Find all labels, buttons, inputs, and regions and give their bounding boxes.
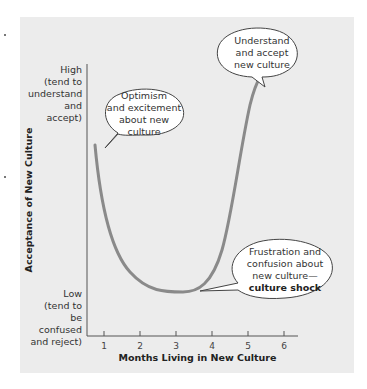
y-high-label: High(tend tounderstandand accept) [28,64,82,124]
y-axis-title: Acceptance of New Culture [23,128,34,273]
x-tick-label: 5 [241,341,255,351]
optimism-bubble-text: Optimismand excitementabout newculture [104,90,184,138]
x-tick-label: 4 [205,341,219,351]
culture-shock-label: culture shock [249,282,321,293]
x-ticks [104,331,284,336]
y-low-label: Low(tend tobe confusedand reject) [24,288,82,348]
x-tick-label: 3 [169,341,183,351]
x-tick-label: 6 [277,341,291,351]
x-axis-title: Months Living in New Culture [105,352,290,363]
x-tick-label: 1 [97,341,111,351]
x-tick-label: 2 [133,341,147,351]
understand-bubble-text: Understandand acceptnew culture [222,35,302,71]
frustration-bubble-text: Frustration andconfusion aboutnew cultur… [240,246,330,294]
